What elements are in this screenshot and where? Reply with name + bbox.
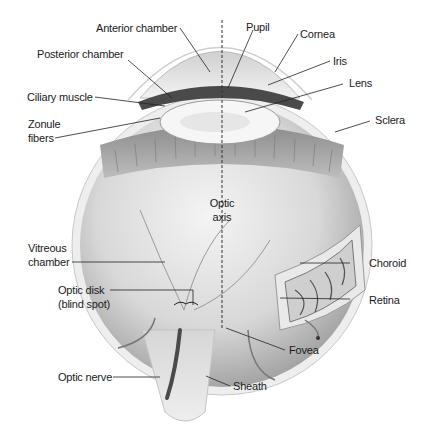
label-optic-disk-line1: Optic disk [58,284,104,297]
label-optic-axis-line2: axis [205,211,239,224]
label-optic-axis-line1: Optic [205,197,239,210]
label-zonule-fibers-line2: fibers [28,132,54,145]
label-lens: Lens [349,77,372,90]
label-fovea: Fovea [289,344,319,357]
label-anterior-chamber: Anterior chamber [96,22,177,35]
label-zonule-fibers-line1: Zonule [28,118,60,131]
label-ciliary-muscle: Ciliary muscle [27,91,93,104]
label-optic-nerve: Optic nerve [58,371,112,384]
label-vitreous-chamber-line2: chamber [28,256,69,269]
label-sheath: Sheath [233,380,267,393]
label-optic-disk-line2: (blind spot) [58,298,110,311]
label-posterior-chamber: Posterior chamber [37,48,123,61]
label-pupil: Pupil [246,21,269,34]
label-iris: Iris [333,55,347,68]
label-cornea: Cornea [300,28,335,41]
label-choroid: Choroid [369,257,406,270]
label-sclera: Sclera [375,114,405,127]
label-vitreous-chamber-line1: Vitreous [28,242,67,255]
label-retina: Retina [369,294,400,307]
eye-anatomy-diagram: Anterior chamber Pupil Cornea Posterior … [0,0,425,437]
